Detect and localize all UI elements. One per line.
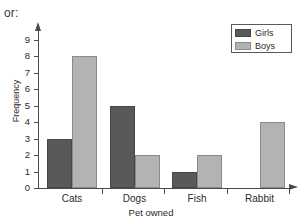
bar-dogs-boys (135, 155, 160, 188)
y-tick-label-2: 2 (10, 150, 30, 159)
x-axis-label-rabbit: Rabbit (230, 193, 290, 205)
bar-cats-girls (47, 139, 72, 188)
y-tick-label-0: 0 (10, 183, 30, 192)
y-tick-label-5: 5 (10, 101, 30, 110)
x-axis-label-dogs: Dogs (105, 193, 165, 205)
legend-item-boys[interactable]: Boys (235, 40, 288, 52)
plot-area (39, 40, 295, 188)
y-tick-label-3: 3 (10, 134, 30, 143)
x-axis-label-cats: Cats (42, 193, 102, 205)
y-tick-label-6: 6 (10, 84, 30, 93)
chart-legend: Girls Boys (231, 24, 292, 53)
legend-label-girls: Girls (255, 28, 274, 38)
bar-rabbit-boys (260, 122, 285, 188)
bar-chart-figure: Frequency 0123456789 CatsDogsFishRabbit … (0, 0, 302, 222)
y-axis-arrow-icon (35, 22, 41, 31)
legend-swatch-girls-icon (235, 29, 251, 37)
bar-fish-boys (197, 155, 222, 188)
y-tick-label-8: 8 (10, 51, 30, 60)
y-tick-0 (34, 188, 39, 189)
x-axis-title: Pet owned (0, 207, 302, 218)
legend-swatch-boys-icon (235, 42, 251, 50)
bar-dogs-girls (110, 106, 135, 188)
y-tick-label-9: 9 (10, 35, 30, 44)
bar-fish-girls (172, 172, 197, 188)
y-tick-label-7: 7 (10, 68, 30, 77)
legend-label-boys: Boys (255, 41, 275, 51)
y-tick-label-4: 4 (10, 117, 30, 126)
legend-item-girls[interactable]: Girls (235, 27, 288, 39)
x-axis-label-fish: Fish (167, 193, 227, 205)
bar-cats-boys (72, 56, 97, 188)
y-tick-label-1: 1 (10, 167, 30, 176)
